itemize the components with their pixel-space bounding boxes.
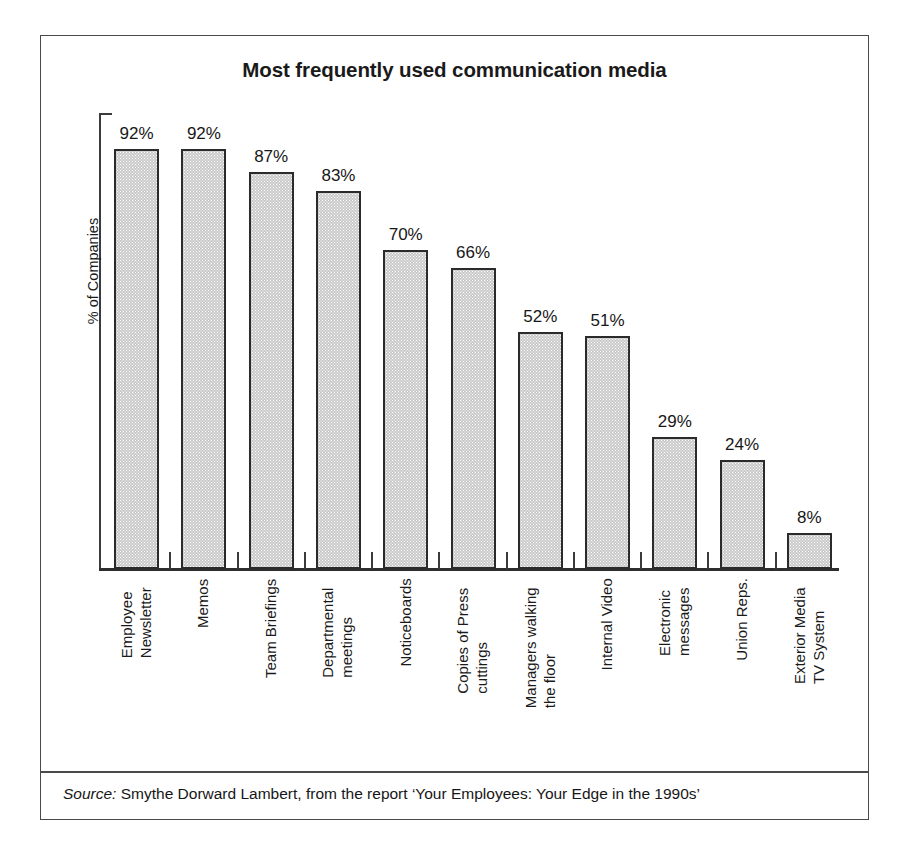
x-axis-label: Departmentalmeetings: [316, 573, 361, 763]
x-axis-label-line: the floor: [540, 588, 559, 709]
x-axis-labels: EmployeeNewsletterMemosTeam BriefingsDep…: [99, 573, 839, 763]
x-axis-label: Memos: [181, 573, 226, 763]
bar[interactable]: [249, 172, 294, 569]
x-axis-tick: [707, 552, 709, 569]
bar[interactable]: [383, 250, 428, 569]
x-axis-label: EmployeeNewsletter: [114, 573, 159, 763]
x-axis-tick: [506, 552, 508, 569]
bar-value-label: 29%: [658, 412, 692, 432]
x-axis-label: Copies of Presscuttings: [451, 573, 496, 763]
x-axis-label-line: Team Briefings: [262, 578, 279, 677]
x-axis-label: Managers walkingthe floor: [518, 573, 563, 763]
bar[interactable]: [652, 437, 697, 569]
x-axis-tick: [169, 552, 171, 569]
bar-value-label: 8%: [797, 508, 822, 528]
bar[interactable]: [181, 149, 226, 569]
x-axis-label: Exterior MediaTV System: [787, 573, 832, 763]
x-axis-label: Noticeboards: [383, 573, 428, 763]
bar-slot: 66%: [451, 113, 496, 569]
bar-value-label: 51%: [591, 311, 625, 331]
x-axis-label: Team Briefings: [249, 573, 294, 763]
y-axis-top-tick: [99, 113, 112, 115]
x-axis-label: Electronicmessages: [652, 573, 697, 763]
source-divider: [41, 771, 868, 773]
source-note: Source: Smythe Dorward Lambert, from the…: [63, 785, 700, 803]
bar-slot: 83%: [316, 113, 361, 569]
bar-slot: 92%: [181, 113, 226, 569]
x-axis-label-line: Noticeboards: [396, 578, 413, 666]
bar-value-label: 83%: [321, 166, 355, 186]
bar-value-label: 70%: [389, 225, 423, 245]
bar-slot: 92%: [114, 113, 159, 569]
bar[interactable]: [114, 149, 159, 569]
x-axis-tick: [371, 552, 373, 569]
x-axis-label: Internal Video: [585, 573, 630, 763]
bar-value-label: 92%: [187, 124, 221, 144]
x-axis-label-line: Newsletter: [137, 588, 156, 659]
y-axis-label: % of Companies: [85, 171, 101, 371]
x-axis-tick: [573, 552, 575, 569]
x-axis-label-line: Managers walking: [522, 588, 539, 709]
chart-title: Most frequently used communication media: [41, 58, 868, 82]
bar-value-label: 92%: [120, 124, 154, 144]
chart-figure-frame: Most frequently used communication media…: [40, 35, 869, 820]
x-axis-tick: [438, 552, 440, 569]
bar-slot: 24%: [720, 113, 765, 569]
plot-area: % of Companies 92%92%87%83%70%66%52%51%2…: [99, 113, 839, 569]
x-axis-label-line: Departmental: [320, 588, 337, 678]
bar[interactable]: [787, 533, 832, 569]
x-axis-label-line: meetings: [338, 588, 357, 678]
bar-slot: 8%: [787, 113, 832, 569]
bar-slot: 51%: [585, 113, 630, 569]
source-text: Smythe Dorward Lambert, from the report …: [116, 785, 700, 802]
x-axis-tick: [304, 552, 306, 569]
x-axis-label-line: cuttings: [473, 588, 492, 694]
bar-value-label: 52%: [523, 307, 557, 327]
x-axis-label-line: Copies of Press: [454, 588, 471, 694]
x-axis-tick: [640, 552, 642, 569]
x-axis-label-line: messages: [675, 588, 694, 656]
x-axis-label-line: Internal Video: [598, 578, 615, 670]
bar[interactable]: [316, 191, 361, 569]
bar-value-label: 87%: [254, 147, 288, 167]
bar[interactable]: [451, 268, 496, 569]
x-axis-label: Union Reps.: [720, 573, 765, 763]
x-axis-label-line: Exterior Media: [791, 588, 808, 685]
bar-value-label: 24%: [725, 435, 759, 455]
x-axis-label-line: Employee: [118, 592, 135, 659]
source-word: Source:: [63, 785, 116, 802]
bar-slot: 52%: [518, 113, 563, 569]
bar[interactable]: [720, 460, 765, 569]
bar-slot: 29%: [652, 113, 697, 569]
x-axis-tick: [237, 552, 239, 569]
bar-slot: 70%: [383, 113, 428, 569]
x-axis-label-line: Electronic: [656, 590, 673, 656]
x-axis-tick: [775, 552, 777, 569]
x-axis-label-line: TV System: [809, 588, 828, 685]
bar[interactable]: [518, 332, 563, 569]
x-axis-label-line: Memos: [195, 578, 212, 627]
bar-slot: 87%: [249, 113, 294, 569]
bar[interactable]: [585, 336, 630, 569]
x-axis-label-line: Union Reps.: [733, 578, 750, 661]
bar-value-label: 66%: [456, 243, 490, 263]
